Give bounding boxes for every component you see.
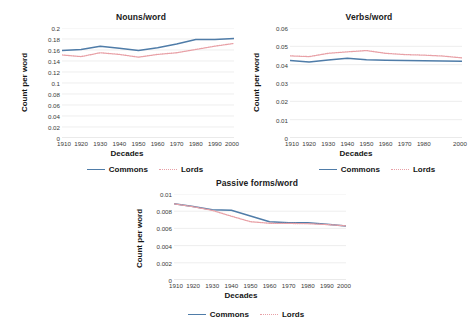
y-tick-label: 0.14 (48, 58, 60, 65)
x-tick-label: 2000 (337, 282, 351, 289)
legend-item-commons-nouns[interactable]: Commons (87, 165, 148, 174)
y-tick-label: 0.02 (276, 98, 288, 105)
y-axis-label-nouns: Count per word (20, 51, 29, 115)
chart-panel-verbs: Verbs/word Count per word 00.010.020.030… (248, 8, 464, 160)
legend-label-lords: Lords (181, 165, 203, 174)
x-tick-label: 1970 (398, 140, 412, 147)
legend-item-lords-passives[interactable]: Lords (260, 310, 304, 319)
legend-label-commons: Commons (341, 165, 380, 174)
chart-figure-page: { "figure": { "background": "#ffffff", "… (0, 0, 469, 331)
x-tick-label: 1940 (224, 282, 238, 289)
x-tick-label: 1910 (285, 140, 299, 147)
x-axis-label-verbs: Decades (248, 149, 464, 158)
y-tick-label: 0.06 (276, 25, 288, 32)
legend-item-lords-verbs[interactable]: Lords (391, 165, 435, 174)
x-tick-label: 1940 (340, 140, 354, 147)
x-tick-label: 1950 (244, 282, 258, 289)
x-tick-label: 1960 (263, 282, 277, 289)
legend-swatch-lords-icon (159, 169, 177, 170)
x-tick-label: 1940 (112, 140, 126, 147)
y-axis-ticks-verbs: 00.010.020.030.040.050.06 (264, 28, 288, 138)
legend-nouns: Commons Lords (60, 163, 230, 175)
y-tick-label: 0.008 (157, 208, 172, 215)
x-tick-label: 1970 (170, 140, 184, 147)
y-tick-label: 0.16 (48, 47, 60, 54)
legend-swatch-commons-icon (87, 169, 105, 170)
x-tick-label: 1930 (321, 140, 335, 147)
legend-passives: Commons Lords (156, 308, 336, 320)
chart-title-passives: Passive forms/word (162, 178, 352, 188)
x-tick-label: 1980 (417, 140, 431, 147)
series-line-commons (290, 58, 462, 62)
y-tick-label: 0.02 (48, 124, 60, 131)
chart-panel-nouns: Nouns/word Count per word 00.020.040.060… (16, 8, 238, 160)
y-tick-label: 0.002 (157, 259, 172, 266)
y-tick-label: 0.18 (48, 36, 60, 43)
x-tick-label: 2000 (225, 140, 239, 147)
x-tick-label: 1980 (189, 140, 203, 147)
chart-panel-passives: Passive forms/word Count per word 00.002… (128, 176, 354, 306)
y-tick-label: 0.08 (48, 91, 60, 98)
series-line-commons (62, 38, 234, 50)
y-tick-label: 0.12 (48, 69, 60, 76)
series-line-lords (290, 51, 462, 58)
x-tick-label: 1910 (57, 140, 71, 147)
plot-svg-passives (174, 194, 346, 280)
x-tick-label: 1930 (205, 282, 219, 289)
x-tick-label: 1990 (208, 140, 222, 147)
legend-label-commons: Commons (109, 165, 148, 174)
y-tick-label: 0.05 (276, 43, 288, 50)
legend-swatch-lords-icon (391, 169, 409, 170)
y-tick-label: 0.004 (157, 242, 172, 249)
plot-svg-nouns (62, 28, 234, 138)
legend-swatch-commons-icon (319, 169, 337, 170)
x-tick-label: 2000 (453, 140, 467, 147)
plot-area-passives (174, 194, 346, 280)
plot-area-nouns (62, 28, 234, 138)
y-tick-label: 0.04 (48, 113, 60, 120)
y-axis-label-verbs: Count per word (252, 51, 261, 115)
x-tick-label: 1950 (132, 140, 146, 147)
chart-title-verbs: Verbs/word (276, 12, 462, 22)
y-tick-label: 0.1 (51, 80, 60, 87)
legend-item-lords-nouns[interactable]: Lords (159, 165, 203, 174)
x-tick-label: 1920 (302, 140, 316, 147)
x-axis-label-nouns: Decades (16, 149, 238, 158)
legend-verbs: Commons Lords (292, 163, 462, 175)
legend-item-commons-passives[interactable]: Commons (188, 310, 249, 319)
x-tick-label: 1920 (186, 282, 200, 289)
x-tick-label: 1980 (301, 282, 315, 289)
y-tick-label: 0.01 (276, 116, 288, 123)
y-tick-label: 0.06 (48, 102, 60, 109)
plot-area-verbs (290, 28, 462, 138)
y-axis-ticks-nouns: 00.020.040.060.080.10.120.140.160.180.2 (38, 28, 60, 138)
y-tick-label: 0.03 (276, 80, 288, 87)
legend-swatch-commons-icon (188, 314, 206, 315)
x-tick-label: 1960 (379, 140, 393, 147)
x-tick-label: 1990 (320, 282, 334, 289)
legend-label-lords: Lords (413, 165, 435, 174)
x-tick-label: 1920 (74, 140, 88, 147)
x-tick-label: 1960 (151, 140, 165, 147)
legend-label-commons: Commons (210, 310, 249, 319)
y-tick-label: 0.04 (276, 61, 288, 68)
x-tick-label: 1970 (282, 282, 296, 289)
chart-title-nouns: Nouns/word (46, 12, 236, 22)
x-tick-label: 1910 (169, 282, 183, 289)
legend-swatch-lords-icon (260, 314, 278, 315)
y-tick-label: 0.01 (160, 191, 172, 198)
x-axis-label-passives: Decades (128, 291, 354, 300)
y-tick-label: 0.2 (51, 25, 60, 32)
x-tick-label: 1930 (93, 140, 107, 147)
x-tick-label: 1950 (360, 140, 374, 147)
y-axis-label-passives: Count per word (135, 208, 144, 270)
legend-label-lords: Lords (282, 310, 304, 319)
y-axis-ticks-passives: 00.0020.0040.0060.0080.01 (146, 194, 172, 280)
plot-svg-verbs (290, 28, 462, 138)
legend-item-commons-verbs[interactable]: Commons (319, 165, 380, 174)
y-tick-label: 0.006 (157, 225, 172, 232)
